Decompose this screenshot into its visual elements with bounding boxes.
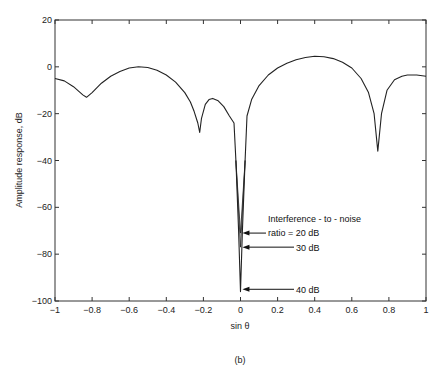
x-axis-ticks: −1−0.8−0.6−0.4−0.200.20.40.60.81 (50, 20, 429, 315)
y-tick-label: −20 (37, 109, 52, 119)
response-curve (55, 56, 426, 291)
arrow-head-icon (242, 245, 249, 250)
y-tick-label: 0 (47, 62, 52, 72)
figure-caption: (b) (235, 355, 246, 365)
arrow-head-icon (242, 231, 249, 236)
y-tick-label: −40 (37, 156, 52, 166)
plot-frame (55, 20, 426, 301)
annotation-title: Interference - to - noise (268, 214, 361, 224)
annotation-30db: 30 dB (296, 243, 320, 253)
arrow-head-icon (242, 287, 249, 292)
x-tick-label: 1 (423, 305, 428, 315)
annotations: Interference - to - noise ratio = 20 dB … (236, 161, 361, 296)
x-axis-label: sin θ (230, 321, 249, 331)
x-tick-label: −0.4 (157, 305, 175, 315)
y-tick-label: −60 (37, 202, 52, 212)
y-axis-label: Amplitude response, dB (14, 112, 24, 208)
y-axis-ticks: 200−20−40−60−80−100 (32, 15, 426, 306)
x-tick-label: −0.8 (83, 305, 101, 315)
x-tick-label: −1 (50, 305, 60, 315)
amplitude-response-chart: −1−0.8−0.6−0.4−0.200.20.40.60.81 200−20−… (0, 0, 443, 382)
x-tick-label: 0 (238, 305, 243, 315)
annotation-40db: 40 dB (296, 285, 320, 295)
y-tick-label: −100 (32, 296, 52, 306)
y-tick-label: 20 (42, 15, 52, 25)
x-tick-label: 0.8 (383, 305, 396, 315)
x-tick-label: 0.2 (271, 305, 284, 315)
x-tick-label: 0.4 (308, 305, 321, 315)
x-tick-label: 0.6 (346, 305, 359, 315)
x-tick-label: −0.2 (195, 305, 213, 315)
y-tick-label: −80 (37, 249, 52, 259)
annotation-20db: ratio = 20 dB (268, 228, 319, 238)
x-tick-label: −0.6 (120, 305, 138, 315)
